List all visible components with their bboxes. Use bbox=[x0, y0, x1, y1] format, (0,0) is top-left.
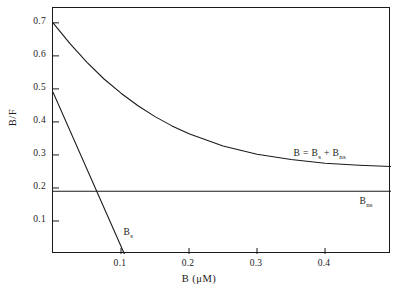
annotation-total-binding: B = Bs + Bns bbox=[293, 148, 345, 161]
curve-specific-binding bbox=[53, 92, 124, 254]
y-tick-label: 0.3 bbox=[16, 148, 46, 158]
plot-canvas bbox=[53, 8, 391, 254]
annotation-specific-binding: Bs bbox=[123, 227, 133, 240]
curve-total-binding bbox=[53, 23, 391, 167]
y-tick-label: 0.2 bbox=[16, 181, 46, 191]
y-tick-label: 0.6 bbox=[16, 49, 46, 59]
plot-area bbox=[52, 7, 390, 253]
y-tick-label: 0.1 bbox=[16, 214, 46, 224]
binding-curve-figure: 0.10.20.30.40.50.60.7 0.10.20.30.4 B/F B… bbox=[0, 0, 398, 294]
y-axis-title: B/F bbox=[7, 98, 18, 138]
x-tick-label: 0.2 bbox=[171, 258, 205, 268]
y-tick-label: 0.5 bbox=[16, 82, 46, 92]
x-axis-ticks bbox=[121, 248, 325, 254]
y-tick-label: 0.7 bbox=[16, 16, 46, 26]
y-tick-label: 0.4 bbox=[16, 115, 46, 125]
x-tick-label: 0.1 bbox=[103, 258, 137, 268]
annotation-nonspecific-binding: Bns bbox=[359, 196, 372, 209]
x-tick-label: 0.3 bbox=[239, 258, 273, 268]
x-tick-label: 0.4 bbox=[307, 258, 341, 268]
x-axis-title: B (μM) bbox=[0, 273, 398, 284]
